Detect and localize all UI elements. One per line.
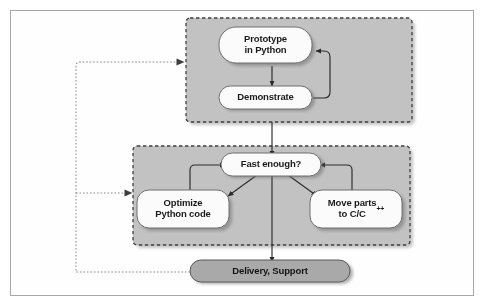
diagram-canvas: Prototype in Python Demonstrate Fast eno… bbox=[0, 0, 484, 306]
diagram-frame bbox=[10, 10, 474, 296]
